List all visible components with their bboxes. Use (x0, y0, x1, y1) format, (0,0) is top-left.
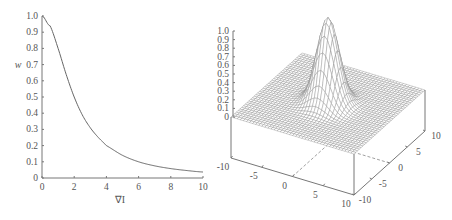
y-tick-label: 1.0 (26, 11, 38, 21)
y-tick-label: 0.2 (26, 141, 38, 151)
y-tick-label: 0.9 (26, 27, 38, 37)
x-axis-label: ∇I (114, 194, 125, 205)
x-tick-label-3d: 0 (282, 181, 287, 191)
y-axis-label: w (15, 59, 22, 70)
x-tick-label-3d: -5 (250, 171, 258, 181)
z-tick-label: 0.4 (217, 78, 229, 88)
z-tick-label: 0.8 (217, 43, 229, 53)
z-tick-label: 1.0 (217, 26, 229, 36)
x-tick-3d (323, 184, 325, 186)
y-tick-label-3d: -10 (359, 195, 372, 205)
z-tick-label: 0.5 (217, 69, 229, 79)
y-tick-label: 0.7 (26, 60, 38, 70)
x-tick-3d (262, 165, 264, 167)
x-tick-label: 0 (40, 182, 45, 192)
y-tick-label: 0.3 (26, 124, 38, 134)
figure: 00.10.20.30.40.50.60.70.80.91.0 0246810 … (0, 0, 452, 220)
x-tick-3d (293, 175, 295, 177)
z-tick-label: 0.1 (217, 103, 229, 113)
x-tick-label-3d: -10 (217, 162, 230, 172)
z-tick-label: 0.2 (217, 95, 229, 105)
series-line (42, 16, 203, 172)
y-tick-3d (405, 146, 407, 147)
z-tick-label: 0.7 (217, 52, 229, 62)
x-tick-label: 2 (72, 182, 77, 192)
surface-mesh (231, 18, 425, 155)
y-tick-label: 0.5 (26, 92, 38, 102)
line-chart: 00.10.20.30.40.50.60.70.80.91.0 0246810 … (15, 11, 208, 205)
x-tick-label: 10 (198, 182, 208, 192)
y-tick-label-3d: 0 (398, 163, 403, 173)
y-tick-label-3d: 10 (431, 131, 441, 141)
y-tick-label: 0.1 (26, 157, 38, 167)
floor-dashed-line (293, 145, 329, 177)
z-tick-label: 0 (224, 112, 229, 122)
z-tick-label: 0.6 (217, 60, 229, 70)
y-tick-label: 0.6 (26, 76, 38, 86)
x-tick-label-3d: 5 (313, 190, 318, 200)
x-tick-label-3d: 10 (341, 199, 351, 209)
x-tick-label: 8 (168, 182, 173, 192)
x-tick-label: 4 (104, 182, 109, 192)
y-tick-label: 0.4 (26, 108, 38, 118)
surface-chart: 00.10.20.30.40.50.60.70.80.91.0 -10-5051… (217, 18, 441, 210)
y-tick-label-3d: 5 (416, 147, 421, 157)
z-tick-label: 0.9 (217, 35, 229, 45)
y-tick-label: 0.8 (26, 43, 38, 53)
y-tick-3d (370, 178, 372, 179)
y-tick-label: 0 (33, 173, 38, 183)
y-tick-label-3d: -5 (379, 179, 387, 189)
z-tick-label: 0.3 (217, 86, 229, 96)
x-tick-label: 6 (136, 182, 141, 192)
